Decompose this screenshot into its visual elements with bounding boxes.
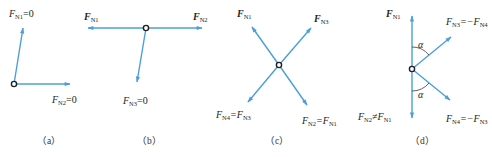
panel-d: FN1 FN3=−FN4 FN2≠FN1 FN4=−FN3 α α （d）	[357, 8, 488, 146]
panel-b: FN1 FN2 FN3=0 （b）	[83, 11, 208, 146]
label-fn1: FN1	[83, 11, 99, 23]
label-fn2-eq-fn1: FN2=FN1	[301, 115, 337, 127]
force-arrow-n4	[248, 65, 279, 102]
label-fn2: FN2=0	[51, 94, 77, 106]
label-fn1: FN1	[236, 8, 252, 20]
caption-d: （d）	[410, 135, 435, 146]
label-fn3: FN3=0	[122, 95, 148, 107]
caption-c: （c）	[265, 135, 289, 146]
force-arrow-n3	[279, 28, 311, 65]
joint-node	[143, 25, 148, 30]
joint-node	[11, 81, 16, 86]
panel-c: FN1 FN3 FN4=FN3 FN2=FN1 （c）	[215, 8, 337, 146]
caption-b: （b）	[137, 135, 162, 146]
label-fn4-eq-neg-fn3: FN4=−FN3	[445, 113, 488, 125]
force-arrow-n2	[279, 65, 307, 105]
angle-alpha-upper: α	[418, 39, 424, 50]
label-fn1: FN1	[385, 8, 401, 20]
joint-node	[276, 62, 281, 67]
joint-node	[409, 66, 414, 71]
force-diagrams: FN1=0 FN2=0 （a） FN1 FN2 FN3=0 （b） FN1 FN…	[0, 0, 492, 157]
force-arrow-n3	[137, 28, 146, 82]
panel-a: FN1=0 FN2=0 （a）	[8, 8, 77, 146]
caption-a: （a）	[37, 135, 61, 146]
angle-alpha-lower: α	[418, 89, 424, 100]
label-fn3-eq-neg-fn4: FN3=−FN4	[445, 16, 488, 28]
label-fn2-neq-fn1: FN2≠FN1	[357, 111, 392, 123]
label-fn1: FN1=0	[8, 8, 34, 20]
force-arrow-n1	[14, 28, 23, 84]
force-arrow-n1	[252, 27, 279, 65]
label-fn2: FN2	[192, 11, 208, 23]
label-fn4-eq-fn3: FN4=FN3	[215, 109, 251, 121]
label-fn3: FN3	[313, 13, 329, 25]
